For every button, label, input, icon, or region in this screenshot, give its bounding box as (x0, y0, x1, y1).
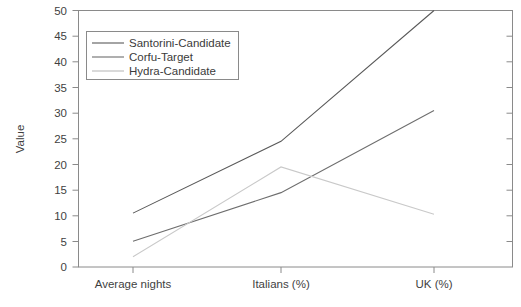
legend-label-santorini-candidate: Santorini-Candidate (129, 37, 231, 49)
x-axis-labels: Average nights Italians (%) UK (%) (95, 278, 453, 290)
y-label-10: 10 (54, 210, 67, 222)
chart-canvas: 50 45 40 35 30 25 20 15 10 5 0 Value Ave… (0, 0, 521, 307)
y-label-15: 15 (54, 184, 67, 196)
y-label-30: 30 (54, 107, 67, 119)
y-axis-labels: 50 45 40 35 30 25 20 15 10 5 0 (54, 5, 67, 274)
series-line-hydra-candidate (133, 167, 434, 257)
y-label-5: 5 (61, 236, 67, 248)
y-axis-ticks (73, 11, 79, 268)
legend-label-hydra-candidate: Hydra-Candidate (129, 65, 216, 77)
legend-label-corfu-target: Corfu-Target (129, 51, 194, 63)
y-label-45: 45 (54, 30, 67, 42)
x-label-italians: Italians (%) (252, 278, 310, 290)
y-label-20: 20 (54, 159, 67, 171)
y-label-40: 40 (54, 56, 67, 68)
y-axis-title: Value (14, 125, 26, 154)
x-label-uk: UK (%) (415, 278, 452, 290)
y-label-50: 50 (54, 5, 67, 17)
x-axis-ticks (133, 267, 434, 273)
y-label-35: 35 (54, 82, 67, 94)
y-label-25: 25 (54, 133, 67, 145)
chart-legend: Santorini-Candidate Corfu-Target Hydra-C… (87, 32, 239, 80)
series-line-corfu-target (133, 111, 434, 242)
right-axis-ticks (507, 36, 513, 241)
x-label-average-nights: Average nights (95, 278, 172, 290)
line-chart-figure: 50 45 40 35 30 25 20 15 10 5 0 Value Ave… (0, 0, 521, 307)
y-label-0: 0 (61, 261, 67, 273)
